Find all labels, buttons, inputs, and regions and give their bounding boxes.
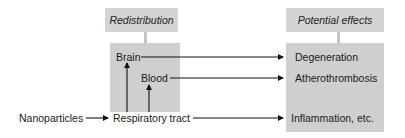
node-atherothrombosis: Atherothrombosis (295, 72, 377, 84)
node-respiratory-tract: Respiratory tract (113, 112, 190, 124)
node-nanoparticles: Nanoparticles (19, 112, 83, 124)
node-degeneration: Degeneration (295, 51, 358, 63)
node-inflammation: Inflammation, etc. (291, 112, 374, 124)
node-brain: Brain (116, 51, 141, 63)
node-blood: Blood (141, 72, 168, 84)
